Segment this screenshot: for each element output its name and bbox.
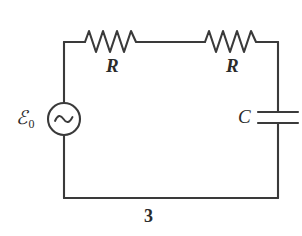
figure-number: 3 bbox=[144, 207, 153, 225]
capacitor-label: C bbox=[238, 107, 251, 126]
ac-source-sine-wave bbox=[55, 116, 73, 122]
emf-subscript: 0 bbox=[29, 117, 35, 131]
circuit-figure: R R C ℰ0 3 bbox=[0, 0, 302, 236]
emf-symbol: ℰ bbox=[16, 107, 28, 128]
resistor-1-label: R bbox=[106, 56, 119, 75]
resistor-2-label: R bbox=[226, 56, 239, 75]
resistor-1-zigzag bbox=[85, 31, 140, 52]
emf-source-label: ℰ0 bbox=[16, 108, 35, 130]
circuit-schematic bbox=[0, 0, 302, 236]
resistor-2-zigzag bbox=[205, 31, 260, 52]
